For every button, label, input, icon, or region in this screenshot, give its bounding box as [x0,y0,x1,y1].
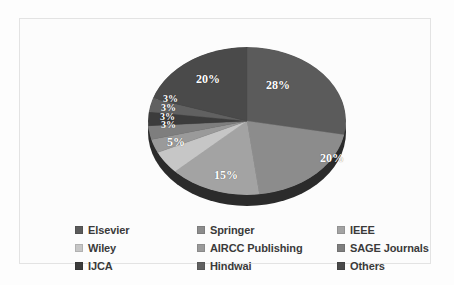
legend-item[interactable]: IEEE [337,221,445,239]
pie-slice-percentage-label: 20% [196,73,220,85]
pie-slice-percentage-label: 28% [266,79,290,91]
pie-top-face [148,47,346,195]
legend-item-label: Others [350,260,385,272]
legend-color-swatch-icon [197,262,205,270]
legend-item-label: AIRCC Publishing [210,242,303,254]
legend-item[interactable]: Springer [197,221,337,239]
pie-slice-percentage-label: 15% [214,169,238,181]
legend-item[interactable]: Wiley [75,239,197,257]
chart-legend: ElsevierSpringerIEEEWileyAIRCC Publishin… [75,221,445,275]
pie-chart: 28%20%15%5%3%3%3%3%20% [148,44,348,214]
legend-color-swatch-icon [75,262,83,270]
legend-item-label: Wiley [88,242,116,254]
legend-item[interactable]: Hindwai [197,257,337,275]
pie-slice-percentage-label: 3% [163,94,178,104]
legend-item[interactable]: Elsevier [75,221,197,239]
pie-slice-percentage-label: 20% [320,152,344,164]
legend-item-label: SAGE Journals [350,242,429,254]
pie-slices [148,47,346,195]
pie-chart-screenshot: 28%20%15%5%3%3%3%3%20% ElsevierSpringerI… [0,0,454,285]
legend-item[interactable]: AIRCC Publishing [197,239,337,257]
pie-slice-percentage-label: 5% [167,136,185,148]
pie-slice-percentage-label: 3% [161,103,176,113]
legend-color-swatch-icon [337,244,345,252]
legend-color-swatch-icon [197,244,205,252]
legend-item[interactable]: Others [337,257,445,275]
legend-item[interactable]: IJCA [75,257,197,275]
legend-color-swatch-icon [75,244,83,252]
legend-item-label: IEEE [350,224,375,236]
legend-color-swatch-icon [337,226,345,234]
pie-slice[interactable] [247,47,346,135]
legend-item-label: Elsevier [88,224,129,236]
legend-color-swatch-icon [75,226,83,234]
legend-item-label: Springer [210,224,254,236]
pie-slice-percentage-label: 3% [160,112,175,122]
legend-color-swatch-icon [197,226,205,234]
legend-item-label: IJCA [88,260,113,272]
legend-item-label: Hindwai [210,260,251,272]
legend-item[interactable]: SAGE Journals [337,239,445,257]
chart-frame: 28%20%15%5%3%3%3%3%20% ElsevierSpringerI… [19,18,431,264]
legend-color-swatch-icon [337,262,345,270]
